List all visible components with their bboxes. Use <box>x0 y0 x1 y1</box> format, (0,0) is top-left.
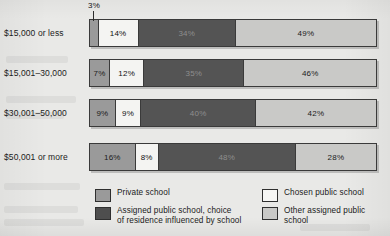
bar-segment-value: 7% <box>94 69 106 78</box>
legend-label: Assigned public school, choice of reside… <box>117 206 241 225</box>
legend-item-private-school: Private school <box>95 188 170 202</box>
bar-segment-private-school: 9% <box>90 100 116 126</box>
bar-segment-assigned-influenced: 48% <box>159 144 296 170</box>
bar-segment-private-school: 7% <box>90 60 110 86</box>
legend-item-assigned-influenced: Assigned public school, choice of reside… <box>95 206 241 225</box>
chart-row: $15,000 or less 3% 14% 34% 49% <box>0 19 390 47</box>
bar-segment-other-assigned: 28% <box>296 144 376 170</box>
callout-leader-line <box>93 11 94 21</box>
legend-item-chosen-public-school: Chosen public school <box>262 188 364 202</box>
bar-segment-value: 42% <box>308 109 325 118</box>
chart-legend: Private school Assigned public school, c… <box>0 186 390 236</box>
bar-segment-value: 16% <box>104 153 121 162</box>
bar-segment-value: 49% <box>298 29 315 38</box>
bar-segment-value: 12% <box>118 69 135 78</box>
bar-segment-value: 46% <box>302 69 319 78</box>
bar-segment-value: 9% <box>96 109 108 118</box>
stacked-bar: 16% 8% 48% 28% <box>89 143 377 171</box>
legend-label: Private school <box>117 188 170 198</box>
bar-segment-chosen-public: 14% <box>99 20 139 46</box>
category-label: $15,001–30,000 <box>4 59 84 87</box>
bar-segment-value: 35% <box>186 69 203 78</box>
bar-segment-other-assigned: 49% <box>236 20 376 46</box>
legend-label: Chosen public school <box>284 188 364 198</box>
stacked-bar: 3% 14% 34% 49% <box>89 19 377 47</box>
bar-segment-value: 28% <box>328 153 345 162</box>
bar-segment-other-assigned: 46% <box>244 60 376 86</box>
chart-page: $15,000 or less 3% 14% 34% 49% $15,001–3… <box>0 0 390 236</box>
bar-segment-chosen-public: 12% <box>110 60 144 86</box>
category-label: $50,001 or more <box>4 143 84 171</box>
bar-segment-chosen-public: 9% <box>116 100 142 126</box>
category-label: $15,000 or less <box>4 19 84 47</box>
legend-item-other-assigned-public: Other assigned public school <box>262 206 365 225</box>
bar-segment-value: 9% <box>122 109 134 118</box>
bar-segment-assigned-influenced: 40% <box>141 100 255 126</box>
stacked-bar: 7% 12% 35% 46% <box>89 59 377 87</box>
stacked-bar-chart: $15,000 or less 3% 14% 34% 49% $15,001–3… <box>0 0 390 185</box>
category-label: $30,001–50,000 <box>4 99 84 127</box>
bar-segment-other-assigned: 42% <box>256 100 376 126</box>
bar-segment-value: 14% <box>110 29 127 38</box>
legend-swatch-icon <box>95 189 111 202</box>
legend-swatch-icon <box>262 189 278 202</box>
bar-segment-value: 8% <box>141 153 153 162</box>
bar-segment-private-school: 3% <box>90 20 99 46</box>
bar-segment-private-school: 16% <box>90 144 136 170</box>
bar-segment-assigned-influenced: 34% <box>139 20 236 46</box>
bar-segment-assigned-influenced: 35% <box>144 60 244 86</box>
chart-row: $50,001 or more 16% 8% 48% 28% <box>0 143 390 171</box>
legend-swatch-icon <box>262 207 278 220</box>
chart-row: $15,001–30,000 7% 12% 35% 46% <box>0 59 390 87</box>
callout-annotation-3-percent: 3% <box>88 1 134 21</box>
bar-segment-value: 34% <box>178 29 195 38</box>
chart-row: $30,001–50,000 9% 9% 40% 42% <box>0 99 390 127</box>
bar-segment-chosen-public: 8% <box>136 144 159 170</box>
bar-segment-value: 40% <box>190 109 207 118</box>
legend-label: Other assigned public school <box>284 206 365 225</box>
callout-label: 3% <box>88 1 100 10</box>
bar-segment-value: 48% <box>218 153 235 162</box>
stacked-bar: 9% 9% 40% 42% <box>89 99 377 127</box>
legend-swatch-icon <box>95 207 111 220</box>
